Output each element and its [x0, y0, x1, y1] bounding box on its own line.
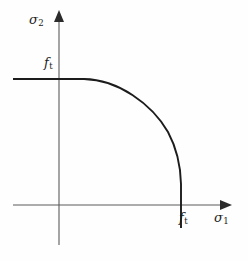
ft-label-sigma2: ft — [44, 56, 52, 69]
ft-label-sigma1: ft — [179, 211, 187, 224]
ft-subscript-vertical: t — [49, 61, 52, 71]
right-arrow-icon — [220, 200, 232, 210]
sigma2-axis-label: σ2 — [29, 13, 43, 26]
failure-envelope-figure: σ2 σ1 ft ft — [0, 0, 248, 261]
plot-canvas — [0, 0, 248, 261]
up-arrow-icon — [54, 10, 64, 22]
sigma1-axis-label: σ1 — [214, 211, 228, 224]
sigma2-subscript: 2 — [38, 18, 43, 28]
sigma1-symbol: σ — [214, 210, 223, 225]
sigma2-symbol: σ — [29, 12, 38, 27]
ft-subscript-horizontal: t — [184, 216, 187, 226]
sigma1-subscript: 1 — [223, 216, 228, 226]
failure-envelope-curve — [13, 79, 181, 228]
